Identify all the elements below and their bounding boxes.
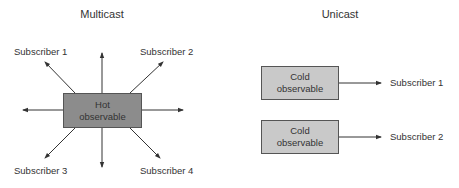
unicast-subscriber-2: Subscriber 2 <box>390 131 443 142</box>
cold-box-1-line1: Cold <box>277 71 323 83</box>
unicast-subscriber-1: Subscriber 1 <box>390 77 443 88</box>
hot-box-line2: observable <box>79 111 125 123</box>
hot-observable-box: Hot observable <box>63 93 142 128</box>
unicast-title: Unicast <box>300 8 380 20</box>
multicast-subscriber-3: Subscriber 3 <box>14 165 67 176</box>
multicast-subscriber-1: Subscriber 1 <box>14 46 67 57</box>
multicast-title: Multicast <box>62 8 142 20</box>
arrow-to-subscriber-3 <box>45 128 75 158</box>
arrow-to-subscriber-2 <box>130 62 163 93</box>
cold-box-2-line2: observable <box>277 137 323 149</box>
multicast-subscriber-2: Subscriber 2 <box>140 46 193 57</box>
multicast-subscriber-4: Subscriber 4 <box>140 165 193 176</box>
arrow-to-subscriber-4 <box>130 128 160 158</box>
cold-box-1-line2: observable <box>277 83 323 95</box>
hot-box-line1: Hot <box>79 99 125 111</box>
cold-observable-box-1: Cold observable <box>261 66 339 100</box>
cold-box-2-line1: Cold <box>277 125 323 137</box>
cold-observable-box-2: Cold observable <box>261 120 339 154</box>
arrow-to-subscriber-1 <box>45 62 75 93</box>
